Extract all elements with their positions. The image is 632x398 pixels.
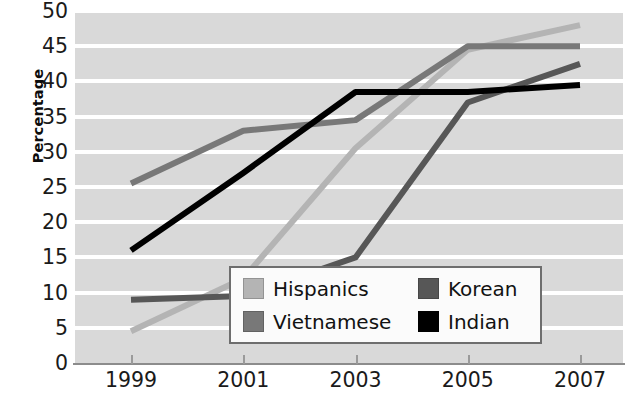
legend-swatch-icon-indian <box>418 311 439 332</box>
x-axis-tick-label: 2001 <box>198 370 288 391</box>
chart-legend: Hispanics Korean Vietnamese Indian <box>229 266 542 344</box>
y-axis-tick-label: 5 <box>0 318 68 339</box>
y-axis-tick-label: 50 <box>0 1 68 22</box>
x-axis-tick-label: 2003 <box>311 370 401 391</box>
legend-label-indian: Indian <box>448 312 510 332</box>
x-axis-tick <box>580 355 582 364</box>
y-axis-tick-labels: 05101520253035404550 <box>0 0 68 380</box>
x-axis-tick <box>356 355 358 364</box>
legend-item-hispanics: Hispanics <box>243 278 418 299</box>
legend-label-vietnamese: Vietnamese <box>273 312 391 332</box>
y-axis-tick-label: 10 <box>0 282 68 303</box>
y-axis-tick-label: 30 <box>0 142 68 163</box>
legend-item-korean: Korean <box>418 278 540 299</box>
y-axis-tick-label: 35 <box>0 106 68 127</box>
y-axis-tick-label: 40 <box>0 71 68 92</box>
legend-swatch-icon-korean <box>418 278 439 299</box>
series-line-korean <box>131 64 580 300</box>
y-axis-tick-label: 15 <box>0 247 68 268</box>
line-chart: Percentage 05101520253035404550 19992001… <box>0 0 632 398</box>
y-axis-tick-label: 0 <box>0 353 68 374</box>
y-axis-tick-label: 45 <box>0 36 68 57</box>
series-line-vietnamese <box>131 46 580 183</box>
x-axis-tick-label: 1999 <box>86 370 176 391</box>
x-axis-tick <box>131 355 133 364</box>
x-axis-tick-label: 2005 <box>423 370 513 391</box>
legend-swatch-icon-vietnamese <box>243 311 264 332</box>
y-axis-tick-label: 20 <box>0 212 68 233</box>
legend-item-vietnamese: Vietnamese <box>243 311 418 332</box>
x-axis-tick-label: 2007 <box>535 370 625 391</box>
legend-swatch-icon-hispanics <box>243 278 264 299</box>
x-axis-tick <box>243 355 245 364</box>
x-axis-line <box>73 363 625 365</box>
legend-item-indian: Indian <box>418 311 540 332</box>
legend-label-korean: Korean <box>448 279 517 299</box>
y-axis-tick-label: 25 <box>0 177 68 198</box>
x-axis-tick <box>468 355 470 364</box>
series-line-indian <box>131 85 580 250</box>
legend-label-hispanics: Hispanics <box>273 279 369 299</box>
